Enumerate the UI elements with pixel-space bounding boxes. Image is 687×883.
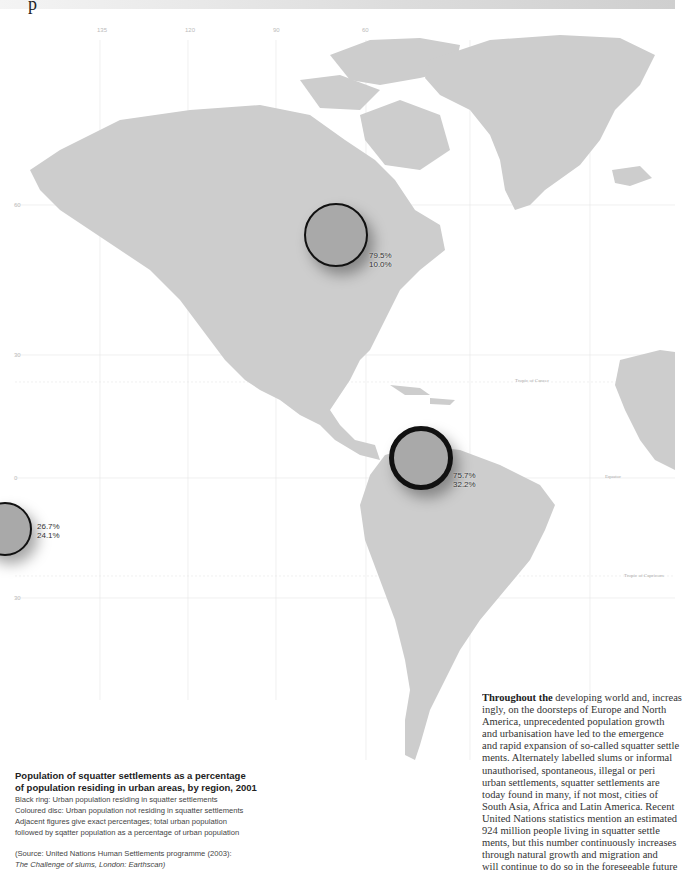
article-line: United Nations statistics mention an est… <box>482 813 687 825</box>
map-legend: Population of squatter settlements as a … <box>15 770 315 870</box>
legend-source-title: The Challenge of slums, London: Earthsca… <box>15 859 315 870</box>
tropic-of-capricorn-label: Tropic of Capricorn <box>624 573 664 578</box>
article-text: Throughout the developing world and, inc… <box>482 692 687 873</box>
region-ring-latin-america <box>389 426 453 490</box>
article-line: and rapid expansion of so-called squatte… <box>482 740 687 752</box>
article-line: ingly, on the doorsteps of Europe and No… <box>482 704 687 716</box>
region-label-latin-america: 75.7% 32.2% <box>453 471 476 489</box>
squatter-pct: 32.2% <box>453 480 476 489</box>
squatter-pct: 10.0% <box>369 260 392 269</box>
article-line: developing world and, increas <box>553 692 682 703</box>
article-line: will continue to do so in the foreseeabl… <box>482 861 687 873</box>
article-line: and urbanisation have led to the emergen… <box>482 728 687 740</box>
region-label-oceania: 26.7% 24.1% <box>37 522 60 540</box>
equator-label: Equator <box>605 474 621 479</box>
longitude-label: 90 <box>273 27 280 33</box>
latitude-label: 30 <box>14 595 21 601</box>
latitude-label: 30 <box>14 352 21 358</box>
article-line: through natural growth and migration and <box>482 849 687 861</box>
article-line: South Asia, Africa and Latin America. Re… <box>482 801 687 813</box>
total-urban-pct: 75.7% <box>453 471 476 480</box>
article-line: America, unprecedented population growth <box>482 716 687 728</box>
legend-figures-desc: Adjacent figures give exact percentages;… <box>15 816 315 827</box>
region-ring-north-america <box>304 203 368 267</box>
longitude-label: 120 <box>185 27 195 33</box>
longitude-label: 135 <box>97 27 107 33</box>
article-line: ments. Alternately labelled slums or inf… <box>482 752 687 764</box>
legend-title: of population residing in urban areas, b… <box>15 782 315 794</box>
total-urban-pct: 26.7% <box>37 522 60 531</box>
legend-ring-desc: Black ring: Urban population residing in… <box>15 794 315 805</box>
tropic-of-cancer-label: Tropic of Cancer <box>515 378 549 383</box>
legend-source: (Source: United Nations Human Settlement… <box>15 848 315 859</box>
legend-figures-desc: followed by sqatter population as a perc… <box>15 827 315 838</box>
latitude-label: 0 <box>14 475 17 481</box>
article-line: urban settlements, squatter settlements … <box>482 777 687 789</box>
latitude-label: 60 <box>14 202 21 208</box>
article-line: ments, but this number continuously incr… <box>482 837 687 849</box>
article-lead: Throughout the <box>482 692 553 703</box>
page-header-bar: p <box>0 0 675 9</box>
longitude-label: 60 <box>362 27 369 33</box>
legend-disc-desc: Coloured disc: Urban population not resi… <box>15 805 315 816</box>
article-line: unauthorised, spontaneous, illegal or pe… <box>482 765 687 777</box>
total-urban-pct: 79.5% <box>369 251 392 260</box>
article-line: 924 million people living in squatter se… <box>482 825 687 837</box>
squatter-pct: 24.1% <box>37 531 60 540</box>
region-label-north-america: 79.5% 10.0% <box>369 251 392 269</box>
legend-title: Population of squatter settlements as a … <box>15 770 315 782</box>
article-line: today found in many, if not most, cities… <box>482 789 687 801</box>
